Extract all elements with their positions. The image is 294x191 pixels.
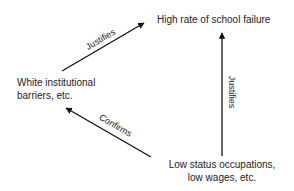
edge-label-justifies-right: Justifies	[227, 76, 237, 109]
node-low-status-occupations-line1: Low status occupations,	[169, 159, 276, 170]
node-white-institutional-barriers-line2: barriers, etc.	[17, 90, 73, 101]
node-high-rate-school-failure: High rate of school failure	[157, 14, 271, 25]
node-white-institutional-barriers-line1: White institutional	[17, 77, 95, 88]
arrow-left-to-top	[62, 23, 144, 71]
cycle-diagram: High rate of school failure White instit…	[0, 0, 294, 191]
edge-label-confirms: Confirms	[97, 112, 134, 139]
node-low-status-occupations-line2: low wages, etc.	[188, 172, 256, 183]
